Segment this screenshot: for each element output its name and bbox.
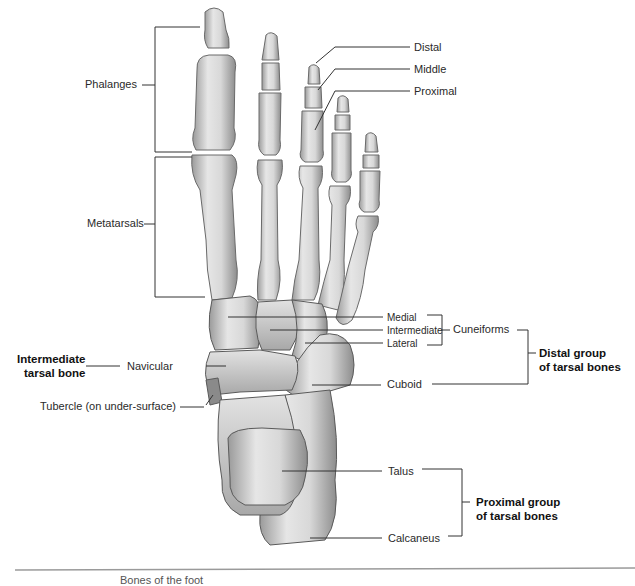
label-navicular: Navicular [127,360,173,373]
bottom-rule [15,568,635,570]
tarsal-bones [205,296,354,545]
label-cuboid: Cuboid [387,378,422,391]
label-lateral: Lateral [387,337,418,350]
label-intermediate-tarsal-1: Intermediate [17,352,85,366]
third-toe [292,65,323,300]
label-distal: Distal [414,41,442,54]
figure-caption: Bones of the foot [120,574,203,586]
label-intermediate-tarsal-2: tarsal bone [24,366,85,380]
medial-cuneiform [209,296,262,350]
label-metatarsals: Metatarsals [87,217,144,230]
label-middle: Middle [414,63,446,76]
label-talus: Talus [388,465,414,478]
label-proximal: Proximal [414,85,457,98]
label-phalanges: Phalanges [85,78,137,91]
label-proximal-group-2: of tarsal bones [476,509,558,523]
label-distal-group-2: of tarsal bones [539,360,621,374]
label-cuneiforms: Cuneiforms [453,323,509,336]
big-toe [192,8,238,300]
label-medial: Medial [387,311,416,324]
second-toe [257,33,282,300]
label-intermediate: Intermediate [387,324,443,337]
talus-head [228,428,308,505]
label-distal-group-1: Distal group [539,346,606,360]
label-tubercle: Tubercle (on under-surface) [40,400,176,413]
intermediate-cuneiform [256,300,299,350]
label-proximal-group-1: Proximal group [476,495,560,509]
label-calcaneus: Calcaneus [388,532,440,545]
